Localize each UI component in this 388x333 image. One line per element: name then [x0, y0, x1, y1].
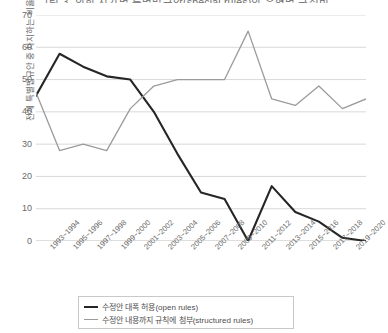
series-line	[36, 54, 366, 241]
series-line	[36, 31, 366, 150]
y-axis-tick-label: 30	[10, 140, 32, 149]
plot-area	[36, 15, 366, 241]
y-axis-tick-label: 40	[10, 107, 32, 116]
data-series-group	[36, 31, 366, 241]
legend-item-label: 수정안 대폭 허용(open rules)	[102, 301, 198, 312]
legend-item-open-rules[interactable]: 수정안 대폭 허용(open rules)	[84, 300, 288, 313]
gridlines	[36, 15, 366, 241]
legend-swatch-icon	[84, 306, 98, 308]
legend-item-label: 수정안 내용까지 규칙에 첨부(structured rules)	[102, 314, 253, 325]
y-axis-tick-label: 20	[10, 172, 32, 181]
legend-swatch-icon	[84, 319, 98, 320]
y-axis-tick-label: 50	[10, 75, 32, 84]
y-axis-tick-label: 10	[10, 204, 32, 213]
chart-svg	[36, 15, 366, 241]
y-axis-tick-label: 60	[10, 43, 32, 52]
legend-item-structured-rules[interactable]: 수정안 내용까지 규칙에 첨부(structured rules)	[84, 313, 288, 326]
chart-title: 그림 3. 의회 시기별 특별법규안(special rules)의 유형별 구…	[0, 0, 368, 3]
y-axis-tick-labels: 010203040506070	[8, 15, 32, 241]
y-axis-tick-label: 0	[10, 237, 32, 246]
x-axis-tick-labels: 1993~19941995~19961997~19981999~20002001…	[36, 243, 366, 299]
chart-legend: 수정안 대폭 허용(open rules) 수정안 내용까지 규칙에 첨부(st…	[78, 296, 294, 329]
y-axis-tick-label: 70	[10, 11, 32, 20]
